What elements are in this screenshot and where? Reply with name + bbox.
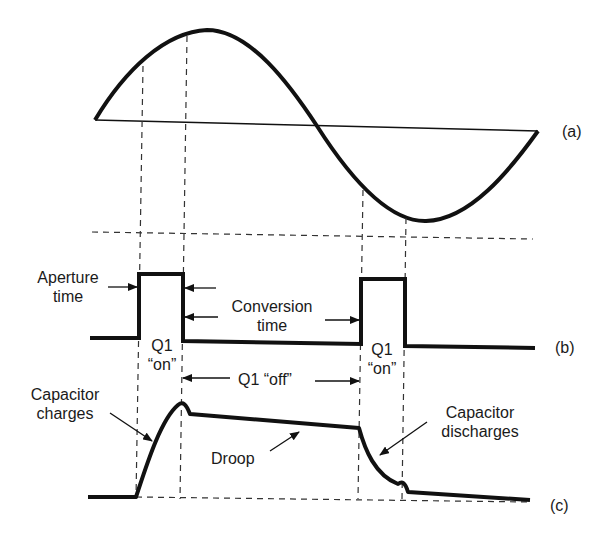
q1-on-label-1: Q1 “on” [139, 336, 185, 374]
guide-line-2 [180, 36, 187, 499]
conversion-time-label: Conversion time [222, 297, 322, 335]
aperture-line2: time [28, 287, 108, 306]
sample-hold-diagram [0, 0, 606, 534]
droop-label: Droop [211, 449, 255, 468]
q1-on-2-line2: “on” [359, 359, 405, 378]
horizontal-divider-dashed [92, 232, 533, 239]
conversion-line2: time [222, 316, 322, 335]
panel-c-label: (c) [550, 496, 569, 515]
conversion-line1: Conversion [222, 297, 322, 316]
sine-wave-curve [95, 30, 538, 221]
aperture-line1: Aperture [28, 268, 108, 287]
q1-on-label-2: Q1 “on” [359, 340, 405, 378]
cap-charges-line1: Capacitor [20, 385, 110, 404]
droop-arrow [270, 432, 299, 451]
cap-charges-line2: charges [20, 404, 110, 423]
capacitor-discharges-label: Capacitor discharges [430, 403, 530, 441]
cap-discharges-line2: discharges [430, 422, 530, 441]
capacitor-charges-label: Capacitor charges [20, 385, 110, 423]
cap-discharges-line1: Capacitor [430, 403, 530, 422]
cap-discharges-arrow [380, 422, 427, 455]
q1-on-1-line1: Q1 [139, 336, 185, 355]
q1-on-2-line1: Q1 [359, 340, 405, 359]
q1-off-label: Q1 “off” [238, 370, 292, 389]
q1-on-1-line2: “on” [139, 355, 185, 374]
panel-a-label: (a) [562, 122, 582, 141]
cap-charges-arrow [110, 413, 152, 441]
panel-b-label: (b) [555, 338, 575, 357]
aperture-time-label: Aperture time [28, 268, 108, 306]
panel-a-sine [95, 30, 538, 221]
